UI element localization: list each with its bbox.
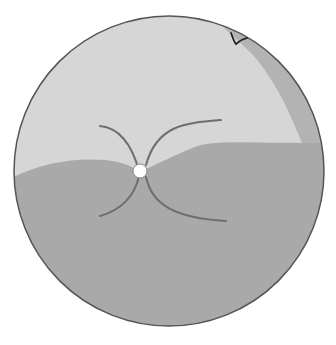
lower-region: [0, 142, 336, 345]
fundus-diagram: V: [0, 0, 336, 345]
optic-disc: [133, 164, 147, 178]
